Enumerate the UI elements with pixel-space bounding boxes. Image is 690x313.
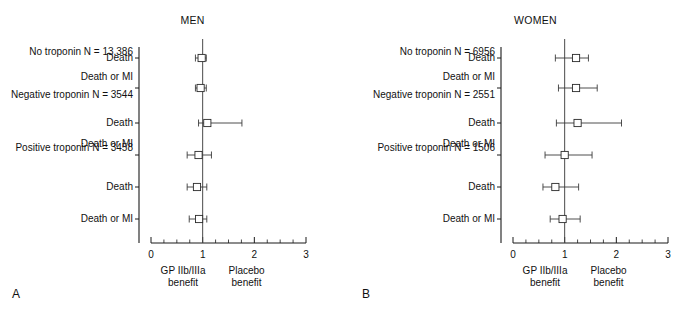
point-estimate-marker bbox=[561, 151, 568, 158]
row-outcome-label: Death or MI bbox=[443, 213, 495, 225]
point-estimate-marker bbox=[552, 183, 559, 190]
forest-row bbox=[543, 183, 579, 190]
row-outcome-label: Death or MI bbox=[81, 71, 133, 83]
caption-placebo-benefit: Placebo benefit bbox=[202, 265, 292, 288]
forest-row bbox=[195, 54, 206, 61]
forest-row bbox=[545, 151, 592, 158]
row-outcome-label: Death bbox=[106, 181, 133, 193]
row-outcome-label: Death bbox=[468, 52, 495, 64]
panel-women: WOMEN 0123No troponin N = 6956DeathDeath… bbox=[345, 0, 690, 313]
forest-row bbox=[189, 215, 207, 222]
point-estimate-marker bbox=[195, 215, 202, 222]
row-outcome-label: Death bbox=[468, 181, 495, 193]
group-label-positive-troponin: Positive troponin N = 3458 bbox=[15, 142, 133, 154]
row-outcome-label: Death bbox=[106, 117, 133, 129]
point-estimate-marker bbox=[574, 119, 581, 126]
forest-row bbox=[199, 119, 242, 126]
plot-area-women: 0123No troponin N = 6956DeathDeath or MI… bbox=[345, 0, 690, 313]
value-axis-tick-label: 3 bbox=[665, 249, 671, 260]
plot-area-men: 0123No troponin N = 13,386DeathDeath or … bbox=[0, 0, 345, 313]
forest-row bbox=[555, 54, 588, 61]
point-estimate-marker bbox=[204, 119, 211, 126]
value-axis-tick-label: 1 bbox=[200, 249, 206, 260]
point-estimate-marker bbox=[572, 54, 579, 61]
panel-men: MEN 0123No troponin N = 13,386DeathDeath… bbox=[0, 0, 345, 313]
group-label-positive-troponin: Positive troponin N = 1506 bbox=[377, 142, 495, 154]
group-label-negative-troponin: Negative troponin N = 3544 bbox=[11, 89, 133, 101]
value-axis-tick-label: 0 bbox=[510, 249, 516, 260]
point-estimate-marker bbox=[197, 84, 204, 91]
forest-row bbox=[550, 215, 580, 222]
forest-row bbox=[187, 151, 211, 158]
panel-letter-a: A bbox=[12, 287, 20, 301]
group-label-negative-troponin: Negative troponin N = 2551 bbox=[373, 89, 495, 101]
forest-row bbox=[195, 84, 206, 91]
forest-plot-figure: MEN 0123No troponin N = 13,386DeathDeath… bbox=[0, 0, 690, 313]
value-axis-tick-label: 3 bbox=[303, 249, 309, 260]
row-outcome-label: Death or MI bbox=[443, 71, 495, 83]
point-estimate-marker bbox=[198, 54, 205, 61]
forest-row bbox=[556, 119, 621, 126]
point-estimate-marker bbox=[572, 84, 579, 91]
point-estimate-marker bbox=[193, 183, 200, 190]
point-estimate-marker bbox=[559, 215, 566, 222]
value-axis-tick-label: 1 bbox=[562, 249, 568, 260]
point-estimate-marker bbox=[195, 151, 202, 158]
value-axis-tick-label: 2 bbox=[252, 249, 258, 260]
value-axis-tick-label: 2 bbox=[614, 249, 620, 260]
panel-letter-b: B bbox=[362, 287, 370, 301]
caption-placebo-benefit: Placebo benefit bbox=[564, 265, 654, 288]
row-outcome-label: Death or MI bbox=[81, 213, 133, 225]
value-axis-tick-label: 0 bbox=[148, 249, 154, 260]
forest-row bbox=[187, 183, 207, 190]
row-outcome-label: Death bbox=[106, 52, 133, 64]
row-outcome-label: Death bbox=[468, 117, 495, 129]
